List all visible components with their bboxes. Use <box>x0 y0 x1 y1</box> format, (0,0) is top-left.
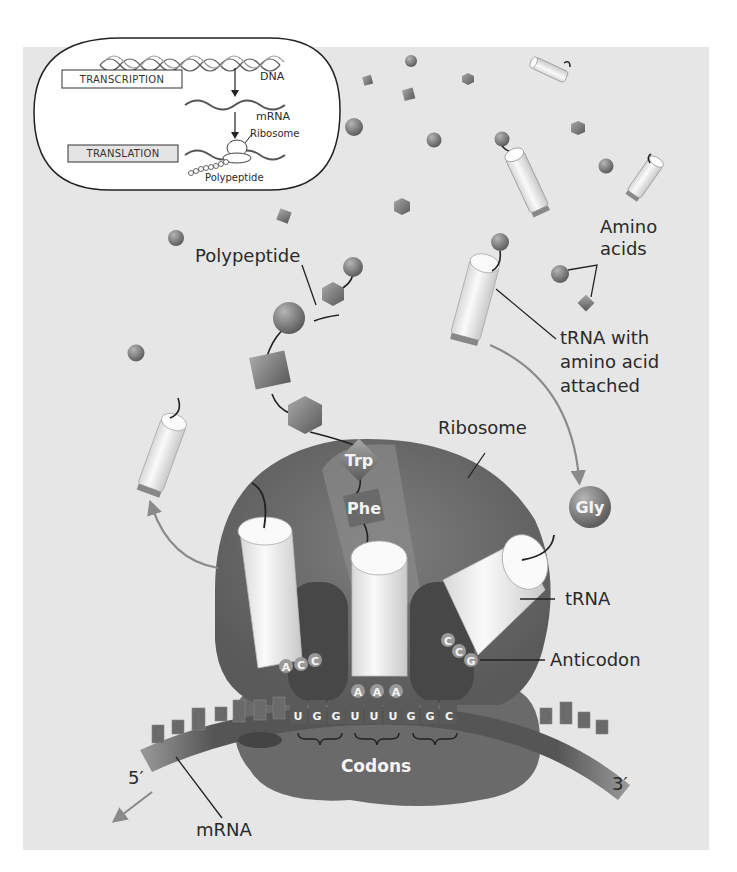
codon-base: U <box>351 710 360 723</box>
amino-acid-sphere-labeled <box>551 265 569 283</box>
phe-label: Phe <box>347 499 381 518</box>
amino-acid-cube-labeled <box>578 295 595 312</box>
amino-acid-hexagon <box>571 121 585 135</box>
polypeptide-residue-hexagon <box>322 282 344 306</box>
polypeptide-residue-hexagon <box>288 396 322 434</box>
amino-acid-sphere <box>168 230 184 246</box>
inset-mrna-label: mRNA <box>256 110 291 123</box>
transcription-label: TRANSCRIPTION <box>79 74 165 85</box>
amino-acid-hexagon <box>462 73 474 85</box>
amino-acid-cube <box>276 208 291 223</box>
trna-p-site: A A A <box>351 541 407 699</box>
polypeptide-residue-sphere <box>273 302 305 334</box>
gly-label: Gly <box>575 498 605 517</box>
codon-base: U <box>294 710 303 723</box>
anticodon-base: C <box>455 646 463 659</box>
amino-acid-sphere <box>345 118 363 136</box>
amino-acid-sphere <box>405 55 417 67</box>
trna-attached-label-line2: amino acid <box>560 351 659 372</box>
codon-base: U <box>389 710 398 723</box>
free-trna-top <box>528 56 570 83</box>
exiting-trna-arrow <box>152 507 218 568</box>
polypeptide-residue-sphere <box>343 257 363 277</box>
central-dogma-inset: DNA TRANSCRIPTION mRNA TRANSLATION Ribos… <box>34 38 340 190</box>
trna-attached-leader <box>496 289 556 339</box>
codons-label: Codons <box>341 756 411 776</box>
anticodon-base: A <box>282 661 291 674</box>
amino-acids-label-line2: acids <box>600 238 647 259</box>
anticodon-base: A <box>354 686 363 699</box>
trna-label: tRNA <box>565 588 611 609</box>
free-trna-right <box>625 154 666 202</box>
anticodon-label: Anticodon <box>550 649 641 670</box>
polypeptide-label: Polypeptide <box>195 245 300 266</box>
three-prime-label: 3′ <box>612 773 628 794</box>
trna-attached-label-line3: attached <box>560 375 640 396</box>
free-trna-carrying-amino-acid <box>495 132 551 218</box>
amino-acid-sphere <box>427 133 442 148</box>
amino-acid-cube <box>402 88 415 101</box>
mrna-leader <box>176 757 222 818</box>
codon-base: C <box>445 710 453 723</box>
ribosome-label: Ribosome <box>438 417 527 438</box>
trna-with-amino-acid <box>449 233 509 346</box>
codon-base: U <box>370 710 379 723</box>
translation-diagram: DNA TRANSCRIPTION mRNA TRANSLATION Ribos… <box>0 0 737 872</box>
anticodon-base: G <box>466 655 475 668</box>
inset-ribosome-label: Ribosome <box>250 128 299 139</box>
inset-polypeptide-label: Polypeptide <box>205 172 264 183</box>
five-prime-arrow <box>118 792 152 818</box>
anticodon-base: C <box>444 635 452 648</box>
codon-base: G <box>312 710 321 723</box>
polypeptide-leader <box>302 265 316 305</box>
attached-amino-acid <box>491 233 509 251</box>
codon-base: G <box>406 710 415 723</box>
amino-acid-sphere <box>599 159 614 174</box>
trp-label: Trp <box>345 451 374 470</box>
amino-acid-sphere <box>128 345 145 362</box>
anticodon-base: C <box>297 659 305 672</box>
codon-base: G <box>331 710 340 723</box>
codon-base: G <box>425 710 434 723</box>
five-prime-label: 5′ <box>128 767 144 788</box>
departing-trna <box>136 398 189 498</box>
amino-acid-cube <box>362 75 373 86</box>
polypeptide-residue-square <box>249 351 291 390</box>
anticodon-base: A <box>373 686 382 699</box>
amino-acid-hexagon <box>394 198 410 215</box>
translation-label: TRANSLATION <box>86 148 160 159</box>
amino-acids-leader <box>568 265 597 297</box>
mrna-label: mRNA <box>196 819 253 840</box>
trna-attached-label-line1: tRNA with <box>560 327 649 348</box>
inset-outline <box>34 38 340 190</box>
anticodon-base: C <box>311 655 319 668</box>
ribosome-shadow <box>238 732 282 748</box>
inset-dna-label: DNA <box>260 70 285 83</box>
amino-acids-label-line1: Amino <box>600 216 657 237</box>
anticodon-base: A <box>392 686 401 699</box>
